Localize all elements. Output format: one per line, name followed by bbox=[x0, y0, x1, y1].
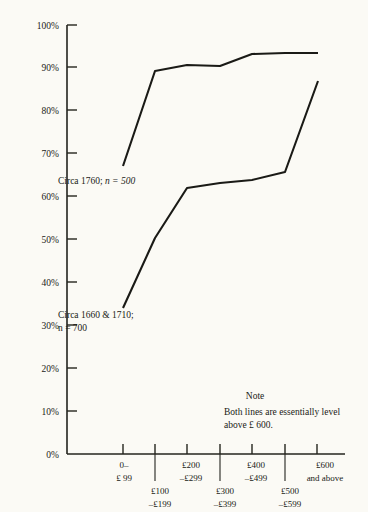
y-tick-label-10: 10% bbox=[42, 407, 60, 417]
note-heading: Note bbox=[246, 391, 264, 401]
x-tick-label-1-line2: £ 99 bbox=[116, 473, 132, 483]
x-tick-label-1-line1: 0– bbox=[120, 460, 130, 470]
y-tick-label-90: 90% bbox=[42, 63, 60, 73]
series-group bbox=[123, 53, 318, 308]
note-body-line-2: above £ 600. bbox=[224, 420, 273, 430]
y-tick-label-20: 20% bbox=[42, 364, 60, 374]
x-axis: 0– £ 99 £200 –£299 £400 –£499 £600 and a… bbox=[67, 444, 345, 509]
y-tick-label-50: 50% bbox=[42, 235, 60, 245]
x-tick-label-6-line1: £500 bbox=[281, 486, 300, 496]
x-tick-label-4-line1: £300 bbox=[216, 486, 235, 496]
x-tick-label-4-line2: –£399 bbox=[213, 499, 237, 509]
series-annotation-1760: Circa 1760; n = 500 bbox=[58, 176, 135, 186]
y-tick-label-80: 80% bbox=[42, 106, 60, 116]
x-tick-label-2-line2: –£199 bbox=[148, 499, 172, 509]
line-chart-figure: 100% 90% 80% 70% 60% 50% 40% 30% 20% 10%… bbox=[0, 0, 368, 512]
series-label-1660-1710-line2: n = 700 bbox=[58, 323, 87, 333]
x-tick-label-5-line2: –£499 bbox=[244, 473, 268, 483]
series-label-1760: Circa 1760; n = 500 bbox=[58, 176, 135, 186]
y-tick-label-70: 70% bbox=[42, 149, 60, 159]
y-tick-label-0: 0% bbox=[46, 450, 59, 460]
note-block: Note Both lines are essentially level ab… bbox=[224, 391, 340, 430]
series-annotation-1660-1710: Circa 1660 & 1710; n = 700 bbox=[58, 310, 134, 333]
series-label-1660-1710-line1: Circa 1660 & 1710; bbox=[58, 310, 134, 320]
series-line-circa-1760[interactable] bbox=[123, 53, 318, 166]
x-tick-label-7-line2: and above bbox=[307, 473, 344, 483]
x-tick-label-5-line1: £400 bbox=[247, 460, 266, 470]
x-tick-label-6-line2: –£599 bbox=[278, 499, 302, 509]
y-axis: 100% 90% 80% 70% 60% 50% 40% 30% 20% 10%… bbox=[37, 21, 77, 460]
y-tick-label-60: 60% bbox=[42, 192, 60, 202]
x-tick-label-2-line1: £100 bbox=[151, 486, 170, 496]
chart-page: 100% 90% 80% 70% 60% 50% 40% 30% 20% 10%… bbox=[0, 0, 368, 512]
x-tick-label-3-line1: £200 bbox=[182, 460, 201, 470]
y-tick-label-30: 30% bbox=[42, 321, 60, 331]
x-tick-label-3-line2: –£299 bbox=[179, 473, 203, 483]
y-tick-label-100: 100% bbox=[37, 21, 59, 31]
note-body-line-1: Both lines are essentially level bbox=[224, 407, 340, 417]
series-line-circa-1660-1710[interactable] bbox=[123, 81, 318, 308]
x-tick-label-7-line1: £600 bbox=[316, 460, 335, 470]
y-tick-label-40: 40% bbox=[42, 278, 60, 288]
